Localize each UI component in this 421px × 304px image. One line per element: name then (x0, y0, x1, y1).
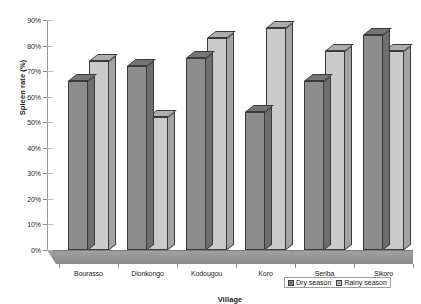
y-gridline (47, 199, 53, 200)
bar (363, 35, 383, 250)
bar-group (186, 20, 227, 250)
plot-area: 0%10%20%30%40%50%60%70%80%90% (47, 20, 413, 250)
bar-side (324, 76, 331, 250)
bar-side (345, 45, 352, 250)
bar (127, 66, 147, 250)
bar-side (88, 76, 95, 250)
y-gridline (47, 122, 53, 123)
legend-label-rainy: Rainy season (344, 279, 386, 286)
bar-group (68, 20, 109, 250)
y-gridline (47, 20, 53, 21)
bar (245, 112, 265, 250)
y-tick-label: 30% (27, 170, 41, 177)
y-axis-line (47, 20, 48, 250)
y-gridline (47, 97, 53, 98)
x-tick (354, 264, 355, 268)
bar-side (404, 45, 411, 250)
legend-label-dry: Dry season (296, 279, 331, 286)
y-tick-label: 90% (27, 17, 41, 24)
y-tick-label: 20% (27, 195, 41, 202)
x-tick (236, 264, 237, 268)
y-tick-label: 10% (27, 221, 41, 228)
x-category-label: Sikoro (374, 270, 393, 277)
y-tick-label: 40% (27, 144, 41, 151)
x-category-label: Bourasso (74, 270, 103, 277)
bar-group (304, 20, 345, 250)
x-tick (295, 264, 296, 268)
y-tick-label: 0% (31, 247, 41, 254)
x-category-label: Kodougou (191, 270, 222, 277)
bar-side (227, 32, 234, 250)
y-gridline (47, 71, 53, 72)
bar (304, 81, 324, 250)
y-tick-label: 70% (27, 68, 41, 75)
bar-group (127, 20, 168, 250)
legend-swatch-rainy-icon (336, 280, 342, 286)
x-tick (118, 264, 119, 268)
y-gridline (47, 250, 53, 251)
y-gridline (47, 46, 53, 47)
bar-side (168, 112, 175, 250)
bar-group (245, 20, 286, 250)
chart-floor-edge (47, 250, 413, 251)
bar-side (383, 30, 390, 250)
bar-face (304, 81, 324, 250)
bar-side (265, 107, 272, 250)
bar-side (286, 22, 293, 250)
legend-item-dry: Dry season (288, 279, 331, 286)
y-gridline (47, 148, 53, 149)
bar-face (245, 112, 265, 250)
y-tick-label: 60% (27, 93, 41, 100)
bar-face (127, 66, 147, 250)
bar (68, 81, 88, 250)
legend-item-rainy: Rainy season (336, 279, 386, 286)
y-tick-label: 50% (27, 119, 41, 126)
bar-side (206, 53, 213, 250)
x-category-label: Koro (258, 270, 272, 277)
bar-face (68, 81, 88, 250)
x-category-label: Dionkongo (131, 270, 164, 277)
x-tick (177, 264, 178, 268)
x-category-label: Seriba (315, 270, 335, 277)
x-tick (59, 264, 60, 268)
bar-group (363, 20, 404, 250)
y-tick-label: 80% (27, 42, 41, 49)
bar-face (186, 58, 206, 250)
y-axis-title: Spleen rate (%) (18, 28, 27, 148)
bar (186, 58, 206, 250)
x-tick (413, 264, 414, 268)
bar-side (147, 61, 154, 250)
chart-legend: Dry season Rainy season (284, 277, 391, 288)
bar-side (109, 55, 116, 250)
chart-floor (47, 250, 413, 264)
x-axis-title: Village (47, 295, 413, 304)
bar-face (363, 35, 383, 250)
y-gridline (47, 224, 53, 225)
y-gridline (47, 173, 53, 174)
legend-swatch-dry-icon (288, 280, 294, 286)
